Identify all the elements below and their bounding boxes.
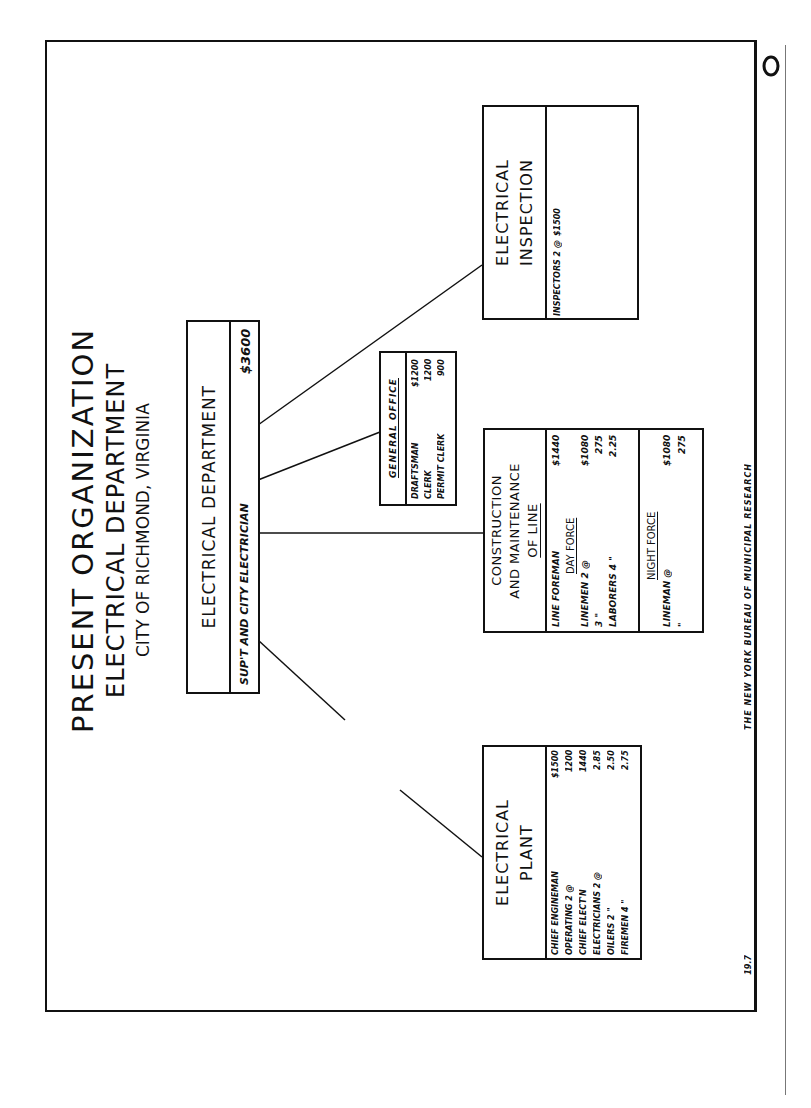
staff-title: DRAFTSMAN	[410, 442, 421, 499]
staff-row: LABORERS 4 " 2.25	[608, 435, 618, 627]
staff-title: PERMIT CLERK	[436, 433, 447, 498]
node-title: GENERAL OFFICE	[388, 378, 398, 478]
staff-row: " 275	[677, 435, 687, 627]
staff-row: INSPECTORS 2 @ $1500	[552, 107, 563, 316]
day-force-label-text: DAY FORCE	[565, 517, 576, 573]
staff-title: LINEMAN @	[662, 568, 672, 626]
night-force-section: NIGHT FORCE LINEMAN @ $1080 " 275	[640, 430, 702, 631]
node-electrical-plant: ELECTRICAL PLANT CHIEF ENGINEMAN $1500 O…	[482, 745, 642, 960]
node-construction-maintenance: CONSTRUCTION AND MAINTENANCE OF LINE LIN…	[483, 428, 704, 633]
staff-salary: 900	[436, 359, 447, 376]
staff-title: CHIEF ELECT'N	[577, 889, 590, 955]
staff-title: FIREMEN 4 "	[619, 900, 632, 956]
staff-row: CLERK 1200	[423, 359, 434, 499]
title-city: CITY OF RICHMOND, VIRGINIA	[133, 300, 153, 760]
staff-salary: $1200	[410, 359, 421, 387]
staff-title: LABORERS 4 "	[608, 556, 618, 627]
staff-salary: $1080	[662, 435, 672, 466]
position-row: SUP'T AND CITY ELECTRICIAN $3600	[238, 329, 253, 685]
staff-salary: 1200	[563, 750, 576, 772]
staff-row: DRAFTSMAN $1200	[410, 359, 421, 499]
node-electrical-inspection: ELECTRICAL INSPECTION INSPECTORS 2 @ $15…	[482, 105, 639, 320]
staff-salary: 275	[594, 435, 604, 454]
staff-salary: 2.75	[619, 750, 632, 770]
staff-salary: 2.25	[608, 435, 618, 457]
staff-row: CHIEF ENGINEMAN $1500	[549, 750, 562, 955]
node-title-line: PLANT	[515, 799, 539, 906]
node-title-line: AND MAINTENANCE	[506, 463, 524, 599]
title-present-organization: PRESENT ORGANIZATION	[66, 280, 100, 780]
node-title-line: ELECTRICAL	[491, 159, 515, 266]
position-title: SUP'T AND CITY ELECTRICIAN	[238, 503, 253, 685]
staff-title: ELECTRICIANS 2 @	[591, 872, 604, 955]
staff-title: OPERATING 2 @	[563, 884, 576, 955]
staff-salary: $1500	[552, 208, 563, 236]
staff-title: INSPECTORS 2 @	[552, 240, 563, 316]
staff-salary: 275	[677, 435, 687, 454]
node-header: ELECTRICAL INSPECTION	[484, 107, 547, 318]
node-body: CHIEF ENGINEMAN $1500 OPERATING 2 @ 1200…	[547, 747, 640, 958]
staff-salary: 1440	[577, 750, 590, 772]
staff-title: LINE FOREMAN	[551, 550, 561, 626]
title-electrical-department: ELECTRICAL DEPARTMENT	[102, 290, 130, 770]
node-header: ELECTRICAL DEPARTMENT	[188, 322, 231, 692]
staff-salary: 2.85	[591, 750, 604, 770]
staff-row: 3 " 275	[594, 435, 604, 627]
node-title: CONSTRUCTION AND MAINTENANCE OF LINE	[488, 463, 542, 599]
publisher-credit: THE NEW YORK BUREAU OF MUNICIPAL RESEARC…	[744, 400, 753, 730]
page-edge-line	[785, 45, 786, 1095]
staff-salary: 2.50	[605, 750, 618, 770]
day-force-label: DAY FORCE	[565, 435, 576, 627]
staff-row: LINEMEN 2 @ $1080	[580, 435, 590, 627]
staff-salary: $1440	[551, 435, 561, 466]
node-body: INSPECTORS 2 @ $1500	[547, 107, 567, 318]
staff-row: ELECTRICIANS 2 @ 2.85	[591, 750, 604, 955]
node-title: ELECTRICAL INSPECTION	[491, 159, 539, 266]
node-general-office: GENERAL OFFICE DRAFTSMAN $1200 CLERK 120…	[379, 351, 457, 506]
node-title-line: OF LINE	[524, 463, 542, 599]
node-title: ELECTRICAL DEPARTMENT	[197, 385, 221, 629]
staff-row: OILERS 2 " 2.50	[605, 750, 618, 955]
node-header: ELECTRICAL PLANT	[484, 747, 547, 958]
node-header: GENERAL OFFICE	[381, 353, 407, 504]
night-force-label-text: NIGHT FORCE	[646, 511, 657, 579]
night-force-label: NIGHT FORCE	[646, 435, 657, 627]
staff-salary: $1500	[549, 750, 562, 778]
node-title-line: INSPECTION	[515, 159, 539, 266]
staff-row: PERMIT CLERK 900	[436, 359, 447, 499]
node-title-line: ELECTRICAL	[491, 799, 515, 906]
staff-title: CHIEF ENGINEMAN	[549, 871, 562, 955]
corner-circle-icon	[762, 54, 780, 78]
staff-title: OILERS 2 "	[605, 907, 618, 955]
node-header: CONSTRUCTION AND MAINTENANCE OF LINE	[485, 430, 547, 631]
staff-title: "	[677, 622, 687, 627]
foreman-row: LINE FOREMAN $1440	[551, 435, 561, 627]
staff-title: CLERK	[423, 470, 434, 499]
staff-title: 3 "	[594, 612, 604, 626]
node-body: SUP'T AND CITY ELECTRICIAN $3600	[231, 322, 260, 692]
staff-row: CHIEF ELECT'N 1440	[577, 750, 590, 955]
staff-salary: $1080	[580, 435, 590, 466]
page-number: 19.7	[744, 955, 753, 975]
staff-row: FIREMEN 4 " 2.75	[619, 750, 632, 955]
staff-title: LINEMEN 2 @	[580, 560, 590, 627]
node-electrical-department: ELECTRICAL DEPARTMENT SUP'T AND CITY ELE…	[186, 320, 260, 694]
day-force-section: LINE FOREMAN $1440 DAY FORCE LINEMEN 2 @…	[547, 430, 640, 631]
node-title: ELECTRICAL PLANT	[491, 799, 539, 906]
node-body: DRAFTSMAN $1200 CLERK 1200 PERMIT CLERK …	[407, 353, 455, 504]
node-title-line: CONSTRUCTION	[488, 463, 506, 599]
staff-row: LINEMAN @ $1080	[662, 435, 672, 627]
staff-row: OPERATING 2 @ 1200	[563, 750, 576, 955]
position-salary: $3600	[238, 329, 253, 374]
staff-salary: 1200	[423, 359, 434, 381]
